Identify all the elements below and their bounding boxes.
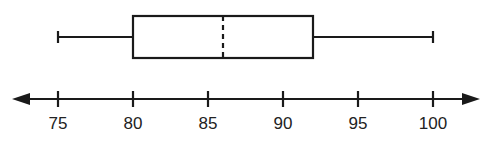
box-plot: [58, 16, 433, 58]
tick-label: 95: [349, 114, 368, 133]
right-arrow-icon: [462, 93, 480, 105]
tick-label: 80: [124, 114, 143, 133]
box-plot-chart: 7580859095100: [0, 0, 491, 144]
number-line-axis: 7580859095100: [12, 91, 480, 133]
left-arrow-icon: [12, 93, 30, 105]
tick-label: 100: [419, 114, 447, 133]
tick-label: 75: [49, 114, 68, 133]
tick-label: 85: [199, 114, 218, 133]
tick-label: 90: [274, 114, 293, 133]
